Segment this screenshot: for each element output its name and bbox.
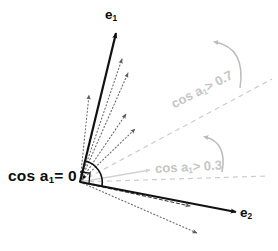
- sample-vector-3: [80, 73, 128, 182]
- cosine-threshold-diagram: cos a1= 0 e1 e2 cos a1> 0.7 cos a1> 0.3: [0, 0, 278, 251]
- label-threshold-03-tail: > 0.3: [192, 158, 222, 175]
- label-cos-alpha-zero-tail: = 0: [54, 167, 77, 184]
- label-cos-alpha-zero: cos a1= 0: [8, 167, 77, 185]
- label-cos-alpha-zero-text: cos a: [8, 167, 49, 184]
- vector-fan-lower: [80, 182, 197, 233]
- label-axis-e1: e1: [105, 7, 117, 22]
- sample-vector-7: [80, 182, 197, 233]
- label-axis-e2-text: e: [240, 205, 248, 220]
- diagram-canvas: [0, 0, 278, 251]
- label-axis-e1-text: e: [105, 7, 113, 22]
- label-threshold-03-sub: 1: [188, 166, 193, 175]
- label-axis-e2: e2: [240, 205, 252, 220]
- label-axis-e2-sub: 2: [248, 211, 253, 221]
- label-axis-e1-sub: 1: [113, 13, 118, 23]
- axis-e2: [80, 182, 236, 212]
- axis-e1: [80, 33, 116, 182]
- label-threshold-03-text: cos a: [155, 159, 189, 176]
- sample-vector-4: [80, 114, 126, 182]
- vector-fan: [80, 59, 135, 182]
- sample-vector-2: [80, 59, 122, 182]
- label-cos-alpha-zero-sub: 1: [49, 174, 55, 185]
